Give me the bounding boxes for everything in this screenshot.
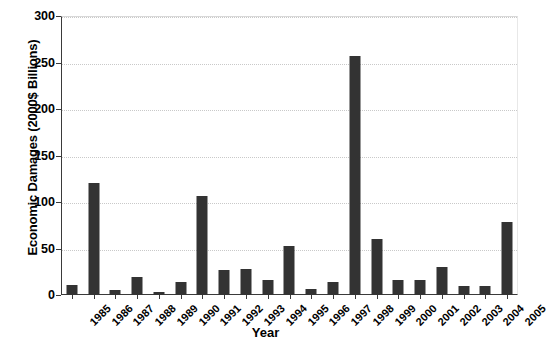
- x-tick-label-1987: 1987: [131, 302, 157, 328]
- x-tick-label-1994: 1994: [283, 302, 309, 328]
- y-tick-label-0: 0: [9, 288, 61, 302]
- x-tick-mark-2003: [464, 295, 465, 299]
- bar-1997[interactable]: [328, 282, 339, 295]
- x-tick-label-2002: 2002: [457, 302, 483, 328]
- x-tick-mark-2000: [398, 295, 399, 299]
- bar-2002[interactable]: [436, 267, 447, 295]
- x-tick-mark-1986: [94, 295, 95, 299]
- x-tick-mark-2001: [420, 295, 421, 299]
- bar-1985[interactable]: [66, 285, 77, 295]
- bar-slot: [235, 16, 257, 295]
- bar-slot: [387, 16, 409, 295]
- bar-slot: [257, 16, 279, 295]
- bar-slot: [474, 16, 496, 295]
- x-tick-mark-1989: [159, 295, 160, 299]
- x-tick-mark-1999: [377, 295, 378, 299]
- bar-1990[interactable]: [175, 282, 186, 295]
- bar-2001[interactable]: [415, 280, 426, 295]
- bar-2000[interactable]: [393, 280, 404, 295]
- bar-1994[interactable]: [262, 280, 273, 295]
- bar-1986[interactable]: [88, 183, 99, 295]
- x-tick-label-1988: 1988: [152, 302, 178, 328]
- x-tick-mark-1985: [72, 295, 73, 299]
- x-tick-label-1986: 1986: [109, 302, 135, 328]
- y-tick-label-50: 50: [9, 242, 61, 256]
- bar-1991[interactable]: [197, 196, 208, 295]
- bar-slot: [148, 16, 170, 295]
- x-tick-label-1992: 1992: [239, 302, 265, 328]
- bar-slot: [366, 16, 388, 295]
- x-tick-label-1995: 1995: [305, 302, 331, 328]
- x-tick-mark-2002: [442, 295, 443, 299]
- x-tick-label-2003: 2003: [479, 302, 505, 328]
- bar-slot: [300, 16, 322, 295]
- bar-slot: [496, 16, 518, 295]
- bar-slot: [344, 16, 366, 295]
- bar-1999[interactable]: [371, 239, 382, 295]
- bar-1993[interactable]: [240, 269, 251, 295]
- x-tick-label-1991: 1991: [218, 302, 244, 328]
- x-tick-label-2005: 2005: [522, 302, 548, 328]
- y-tick-label-250: 250: [9, 56, 61, 70]
- x-tick-mark-1997: [333, 295, 334, 299]
- bar-1998[interactable]: [349, 56, 360, 295]
- bar-slot: [61, 16, 83, 295]
- x-tick-mark-1992: [224, 295, 225, 299]
- x-tick-mark-1993: [246, 295, 247, 299]
- bar-slot: [83, 16, 105, 295]
- x-tick-label-1997: 1997: [348, 302, 374, 328]
- x-axis-title: Year: [0, 325, 531, 340]
- bar-slot: [105, 16, 127, 295]
- x-tick-mark-1995: [290, 295, 291, 299]
- x-tick-label-1996: 1996: [326, 302, 352, 328]
- bar-slot: [126, 16, 148, 295]
- x-tick-label-1989: 1989: [174, 302, 200, 328]
- y-tick-label-200: 200: [9, 102, 61, 116]
- x-tick-mark-2004: [485, 295, 486, 299]
- x-tick-label-1990: 1990: [196, 302, 222, 328]
- x-tick-label-2001: 2001: [435, 302, 461, 328]
- y-tick-label-150: 150: [9, 149, 61, 163]
- x-tick-mark-1998: [355, 295, 356, 299]
- x-tick-label-2000: 2000: [413, 302, 439, 328]
- bar-slot: [453, 16, 475, 295]
- x-tick-mark-1990: [181, 295, 182, 299]
- bar-1988[interactable]: [132, 277, 143, 295]
- y-tick-label-100: 100: [9, 195, 61, 209]
- bar-slot: [213, 16, 235, 295]
- bar-1995[interactable]: [284, 246, 295, 295]
- bar-2004[interactable]: [480, 286, 491, 295]
- bar-series: [61, 16, 518, 295]
- bar-slot: [192, 16, 214, 295]
- x-tick-mark-1988: [137, 295, 138, 299]
- y-axis-tick-group: 050100150200250300: [0, 0, 61, 347]
- x-tick-mark-1991: [202, 295, 203, 299]
- bar-slot: [409, 16, 431, 295]
- x-tick-label-2004: 2004: [501, 302, 527, 328]
- x-tick-label-1993: 1993: [261, 302, 287, 328]
- bar-2005[interactable]: [502, 222, 513, 295]
- y-tick-label-300: 300: [9, 9, 61, 23]
- x-tick-mark-1994: [268, 295, 269, 299]
- x-tick-label-1998: 1998: [370, 302, 396, 328]
- bar-slot: [170, 16, 192, 295]
- x-tick-label-1999: 1999: [392, 302, 418, 328]
- bar-slot: [431, 16, 453, 295]
- x-tick-mark-1987: [115, 295, 116, 299]
- bar-2003[interactable]: [458, 286, 469, 295]
- bar-slot: [322, 16, 344, 295]
- x-tick-mark-2005: [507, 295, 508, 299]
- bar-1992[interactable]: [219, 270, 230, 295]
- x-tick-label-1985: 1985: [87, 302, 113, 328]
- x-tick-mark-1996: [311, 295, 312, 299]
- bar-slot: [279, 16, 301, 295]
